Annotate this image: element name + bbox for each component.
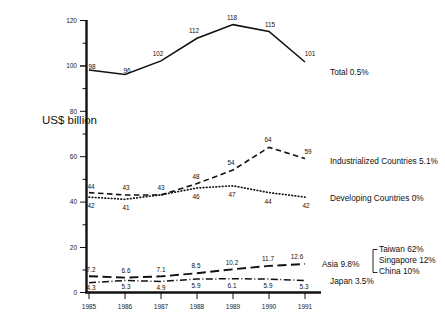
y-tick-60: 60: [70, 153, 78, 160]
point-label-total-1991: 101: [305, 50, 316, 57]
point-label-asia-1987: 7.1: [157, 266, 166, 273]
point-label-asia-1990: 11.7: [262, 255, 274, 262]
point-label-japan-1989: 6.1: [228, 282, 237, 289]
series-labels-asia: 7.2 6.6 7.1 8.5 10.2 11.7 12.6: [87, 253, 304, 274]
y-axis-ticks: 120 100 80 60 40 20 0: [66, 17, 86, 296]
point-label-dev-1991: 42: [302, 202, 310, 209]
point-label-asia-1985: 7.2: [87, 266, 96, 273]
point-label-ind-1985: 44: [87, 183, 95, 190]
point-label-ind-1991: 59: [304, 148, 312, 155]
point-label-japan-1988: 5.9: [192, 282, 201, 289]
point-label-ind-1988: 48: [192, 173, 200, 180]
point-label-total-1985: 98: [88, 63, 96, 70]
legend-label-singapore: Singapore 12%: [379, 255, 436, 265]
point-label-total-1986: 96: [123, 67, 131, 74]
legend-label-japan: Japan 3.5%: [330, 276, 374, 286]
series-labels-japan: 4.3 5.3 4.9 5.9 6.1 5.9 5.3: [87, 282, 309, 292]
point-label-asia-1991: 12.6: [291, 253, 304, 260]
y-tick-100: 100: [66, 62, 77, 69]
y-tick-80: 80: [70, 108, 78, 115]
point-label-ind-1990: 64: [264, 136, 272, 143]
point-label-total-1989: 118: [227, 14, 238, 21]
point-label-asia-1986: 6.6: [122, 267, 131, 274]
x-tick-1987: 1987: [154, 303, 169, 310]
x-tick-1990: 1990: [262, 303, 277, 310]
legend-label-china: China 10%: [379, 266, 420, 276]
legend-label-asia: Asia 9.8%: [322, 259, 360, 269]
series-labels-total: 98 96 102 112 118 115 101: [88, 14, 315, 74]
x-axis-ticks: 1985 1986 1987 1988 1989 1990 1991: [82, 293, 313, 311]
point-label-total-1987: 102: [153, 50, 164, 57]
point-label-total-1990: 115: [265, 21, 276, 28]
point-label-total-1988: 112: [189, 27, 200, 34]
legend-label-taiwan: Taiwan 62%: [379, 244, 424, 254]
y-tick-20: 20: [70, 244, 78, 251]
y-tick-120: 120: [66, 17, 77, 24]
point-label-japan-1991: 5.3: [300, 283, 309, 290]
point-label-ind-1986: 43: [122, 184, 130, 191]
x-tick-1991: 1991: [298, 303, 313, 310]
point-label-dev-1990: 44: [264, 198, 272, 205]
x-tick-1989: 1989: [226, 303, 241, 310]
y-axis-title: US$ billion: [42, 114, 97, 126]
point-label-dev-1985: 42: [87, 202, 95, 209]
x-tick-1985: 1985: [82, 303, 97, 310]
chart-container: US$ billion 120 100 80 60 40 20 0: [0, 0, 445, 329]
x-tick-1988: 1988: [190, 303, 205, 310]
point-label-ind-1987: 43: [157, 184, 165, 191]
point-label-ind-1989: 54: [227, 159, 235, 166]
point-label-japan-1990: 5.9: [264, 282, 273, 289]
point-label-asia-1988: 8.5: [192, 262, 201, 269]
point-label-asia-1989: 10.2: [226, 259, 239, 266]
point-label-japan-1987: 4.9: [157, 284, 166, 291]
legend-label-developing: Developing Countries 0%: [330, 193, 424, 203]
line-chart: US$ billion 120 100 80 60 40 20 0: [0, 0, 445, 329]
asia-breakdown-bracket: [373, 250, 378, 273]
point-label-japan-1985: 4.3: [87, 284, 96, 291]
y-tick-0: 0: [73, 289, 77, 296]
point-label-dev-1989: 47: [228, 191, 236, 198]
point-label-dev-1986: 41: [122, 204, 130, 211]
y-tick-40: 40: [70, 198, 78, 205]
legend-label-industrialized: Industrialized Countries 5.1%: [330, 156, 439, 166]
point-label-japan-1986: 5.3: [122, 283, 131, 290]
x-tick-1986: 1986: [118, 303, 133, 310]
legend-label-total: Total 0.5%: [330, 67, 369, 77]
point-label-dev-1988: 46: [192, 193, 200, 200]
